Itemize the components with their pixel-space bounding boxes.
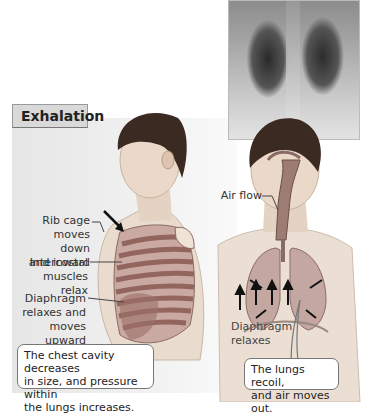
label-diaphragm: Diaphragm relaxes and moves upward bbox=[10, 292, 86, 348]
label-diaphragm-relaxes: Diaphragm relaxes bbox=[231, 320, 291, 348]
label-line: Air flow bbox=[216, 189, 262, 203]
label-line: Diaphragm bbox=[231, 320, 291, 334]
label-air-flow: Air flow bbox=[216, 189, 262, 203]
label-line: relaxes and bbox=[10, 306, 86, 320]
label-line: Rib cage bbox=[22, 214, 90, 228]
callout-line: and air moves out. bbox=[251, 389, 332, 415]
label-line: Diaphragm bbox=[10, 292, 86, 306]
callout-lungs-recoil: The lungs recoil, and air moves out. bbox=[244, 358, 339, 390]
callout-line: the lungs increases. bbox=[24, 401, 147, 414]
label-line: Intercostal bbox=[14, 256, 88, 270]
label-line: moves down bbox=[22, 228, 90, 256]
left-figure bbox=[98, 113, 204, 360]
callout-line: The lungs recoil, bbox=[251, 363, 332, 389]
label-line: relaxes bbox=[231, 334, 291, 348]
callout-line: The chest cavity decreases bbox=[24, 349, 147, 375]
callout-chest-cavity: The chest cavity decreases in size, and … bbox=[17, 344, 154, 389]
exhalation-title: Exhalation bbox=[12, 104, 88, 128]
callout-line: in size, and pressure within bbox=[24, 375, 147, 401]
rib-cage-leader bbox=[92, 222, 104, 232]
